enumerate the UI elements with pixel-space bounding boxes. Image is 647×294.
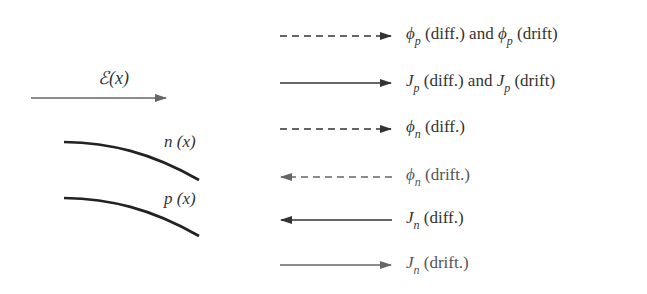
legend-label-j-n-diff: Jn (diff.) bbox=[406, 208, 464, 231]
field-label: ℰ(x) bbox=[98, 67, 129, 89]
legend-label-phi-p: ϕp (diff.) and ϕp (drift) bbox=[406, 24, 558, 47]
p-curve-label: p (x) bbox=[164, 189, 196, 209]
legend-label-j-n-drift: Jn (drift.) bbox=[406, 253, 469, 276]
n-curve-label: n (x) bbox=[164, 132, 196, 152]
legend-label-phi-n-diff: ϕn (diff.) bbox=[406, 117, 465, 140]
legend-label-phi-n-drift: ϕn (drift.) bbox=[406, 165, 470, 188]
legend-label-j-p: Jp (diff.) and Jp (drift) bbox=[406, 71, 555, 94]
